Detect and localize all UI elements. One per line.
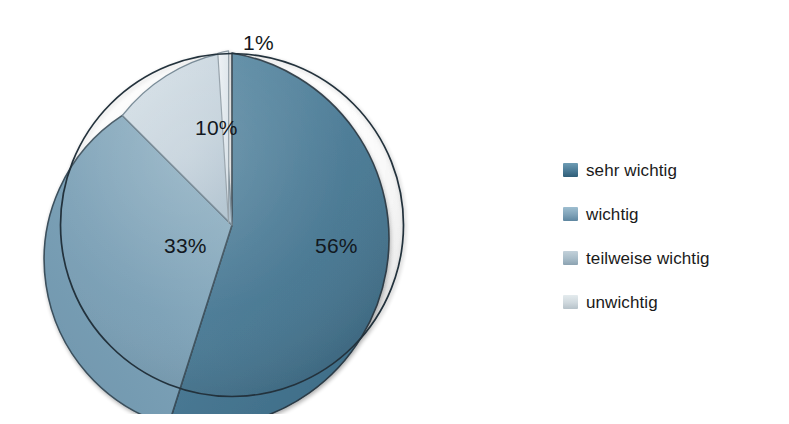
legend-swatch-icon: [563, 251, 578, 265]
legend-label: wichtig: [586, 206, 639, 223]
pie-chart-figure: 1% 10% 33% 56% sehr wichtig wichtig teil…: [0, 0, 789, 424]
slice-label-unwichtig: 1%: [243, 32, 274, 53]
slice-label-teilweise-wichtig: 10%: [195, 117, 238, 138]
legend-item-sehr-wichtig[interactable]: sehr wichtig: [563, 148, 778, 192]
pie-chart-svg: [40, 10, 440, 414]
slice-label-sehr-wichtig: 56%: [315, 235, 358, 256]
pie-chart-area: 1% 10% 33% 56%: [40, 10, 440, 414]
legend-label: sehr wichtig: [586, 162, 677, 179]
legend-item-teilweise-wichtig[interactable]: teilweise wichtig: [563, 236, 778, 280]
legend-label: teilweise wichtig: [586, 250, 710, 267]
slice-label-wichtig: 33%: [164, 235, 207, 256]
chart-legend: sehr wichtig wichtig teilweise wichtig u…: [563, 148, 778, 324]
legend-swatch-icon: [563, 207, 578, 221]
legend-label: unwichtig: [586, 294, 658, 311]
legend-swatch-icon: [563, 295, 578, 309]
legend-item-unwichtig[interactable]: unwichtig: [563, 280, 778, 324]
legend-swatch-icon: [563, 163, 578, 177]
legend-item-wichtig[interactable]: wichtig: [563, 192, 778, 236]
